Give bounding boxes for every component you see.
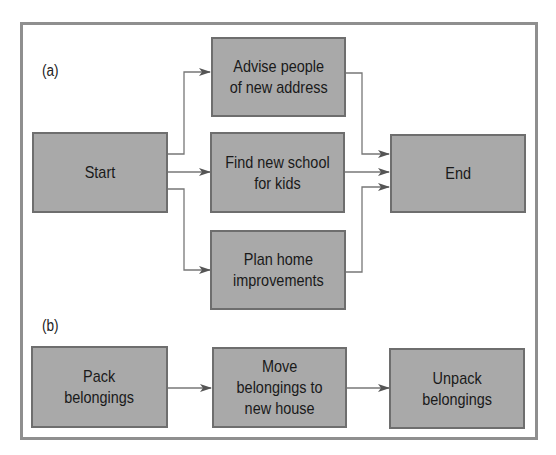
node-start-label: Start (85, 162, 116, 183)
node-pack: Pack belongings (31, 346, 168, 428)
node-unpack: Unpack belongings (389, 348, 525, 429)
node-advise-people: Advise people of new address (211, 37, 346, 117)
node-end: End (390, 134, 526, 213)
node-pack-label: Pack belongings (65, 366, 135, 408)
node-advise-people-label: Advise people of new address (229, 56, 327, 98)
node-find-school: Find new school for kids (210, 132, 345, 213)
node-end-label: End (445, 163, 471, 184)
node-move: Move belongings to new house (212, 347, 347, 428)
node-unpack-label: Unpack belongings (422, 368, 492, 410)
node-find-school-label: Find new school for kids (225, 152, 329, 194)
node-plan-home: Plan home improvements (210, 230, 346, 310)
node-start: Start (32, 132, 168, 213)
node-plan-home-label: Plan home improvements (233, 249, 324, 291)
node-move-label: Move belongings to new house (237, 356, 323, 419)
